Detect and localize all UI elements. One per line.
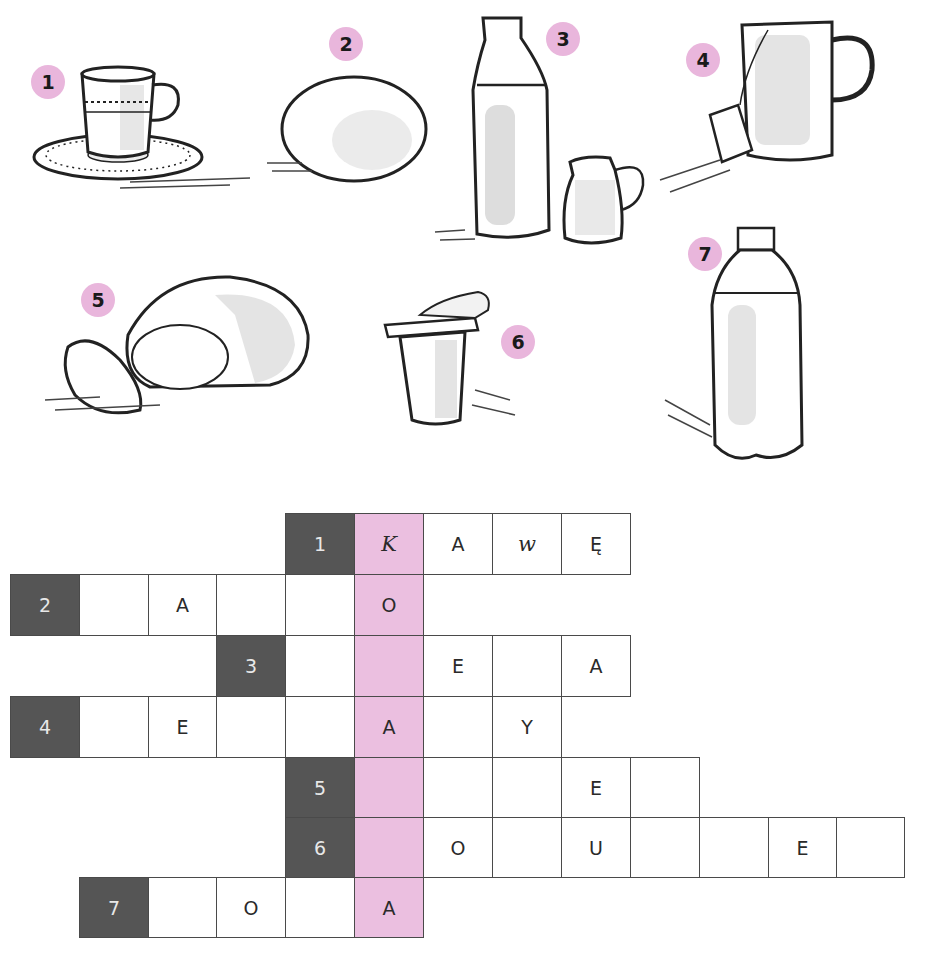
crossword-cell[interactable] (836, 817, 905, 878)
crossword-cell[interactable]: A (354, 696, 424, 758)
crossword-cell[interactable]: w (492, 513, 562, 575)
crossword-cell[interactable] (492, 757, 562, 818)
crossword-cell[interactable] (630, 817, 700, 878)
crossword-cell[interactable]: O (354, 574, 424, 636)
crossword-cell[interactable] (148, 877, 217, 938)
crossword-cell[interactable] (285, 696, 355, 758)
crossword-cell[interactable]: E (561, 757, 631, 818)
crossword-cell[interactable] (423, 757, 493, 818)
picture-number-badge: 4 (686, 43, 720, 77)
crossword-cell[interactable]: A (148, 574, 217, 636)
crossword-cell[interactable] (423, 696, 493, 758)
crossword-cell[interactable] (79, 696, 149, 758)
crossword-cell[interactable]: O (423, 817, 493, 878)
picture-number-badge: 1 (31, 65, 65, 99)
clue-number-cell: 2 (10, 574, 80, 636)
crossword-cell[interactable] (354, 817, 424, 878)
crossword-cell[interactable] (216, 696, 286, 758)
bread-icon (40, 265, 320, 425)
crossword-cell[interactable]: K (354, 513, 424, 575)
clue-number-cell: 6 (285, 817, 355, 878)
crossword-cell[interactable] (285, 574, 355, 636)
picture-number-badge: 5 (81, 283, 115, 317)
egg-icon (262, 65, 432, 195)
crossword-cell[interactable]: A (561, 635, 631, 697)
crossword-cell[interactable]: U (561, 817, 631, 878)
crossword-cell[interactable] (216, 574, 286, 636)
water-bottle-icon (660, 225, 810, 470)
crossword-cell[interactable]: A (354, 877, 424, 938)
crossword-cell[interactable]: E (768, 817, 837, 878)
picture-number-badge: 2 (329, 27, 363, 61)
crossword-cell[interactable] (630, 757, 700, 818)
clue-number-cell: 3 (216, 635, 286, 697)
clue-number-cell: 5 (285, 757, 355, 818)
crossword-cell[interactable] (285, 635, 355, 697)
picture-number-badge: 7 (688, 237, 722, 271)
crossword-cell[interactable]: E (148, 696, 217, 758)
picture-4-tea-mug (660, 10, 890, 210)
crossword-cell[interactable] (699, 817, 769, 878)
crossword-cell[interactable] (354, 635, 424, 697)
tea-mug-icon (660, 10, 890, 210)
crossword-cell[interactable]: O (216, 877, 286, 938)
crossword-cell[interactable] (79, 574, 149, 636)
crossword-cell[interactable]: Y (492, 696, 562, 758)
picture-number-badge: 6 (501, 325, 535, 359)
picture-2-egg (262, 65, 432, 195)
crossword-cell[interactable] (492, 635, 562, 697)
crossword-cell[interactable] (492, 817, 562, 878)
picture-7-water-bottle (660, 225, 810, 470)
picture-5-bread (40, 265, 320, 425)
picture-number-badge: 3 (546, 22, 580, 56)
clue-number-cell: 4 (10, 696, 80, 758)
clue-number-cell: 1 (285, 513, 355, 575)
crossword-cell[interactable]: E (423, 635, 493, 697)
crossword-cell[interactable] (285, 877, 355, 938)
crossword-cell[interactable]: A (423, 513, 493, 575)
clue-number-cell: 7 (79, 877, 149, 938)
crossword-cell[interactable] (354, 757, 424, 818)
crossword-cell[interactable]: Ę (561, 513, 631, 575)
